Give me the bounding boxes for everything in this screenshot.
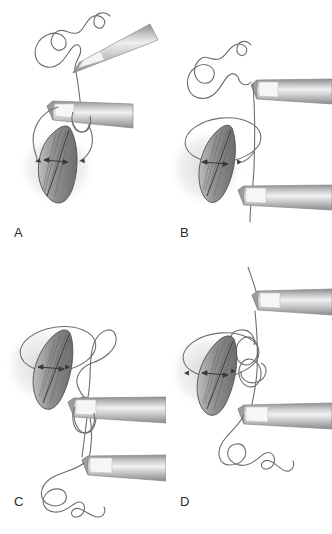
panel-d-illustration (166, 267, 332, 534)
panel-c: C (0, 267, 166, 534)
suture-upper-loop (77, 330, 116, 405)
figure-root: A (0, 0, 332, 534)
panel-b-illustration (166, 0, 332, 267)
panel-label-c: C (14, 495, 24, 508)
panel-d: D (166, 267, 332, 534)
panel-label-d: D (180, 495, 190, 508)
instrument-lower (82, 455, 166, 481)
instrument-upper (73, 24, 158, 73)
panel-a-illustration (0, 0, 166, 267)
instrument-upper (251, 79, 332, 104)
panel-label-b: B (180, 226, 189, 239)
instrument-upper (68, 397, 166, 423)
panel-a: A (0, 0, 166, 267)
panel-b: B (166, 0, 332, 267)
instrument-lower (238, 185, 332, 210)
instrument-upper (252, 289, 332, 315)
panel-label-a: A (14, 226, 23, 239)
panel-c-illustration (0, 267, 166, 534)
suture-thread-free (187, 41, 251, 98)
instrument-lower (238, 403, 332, 429)
